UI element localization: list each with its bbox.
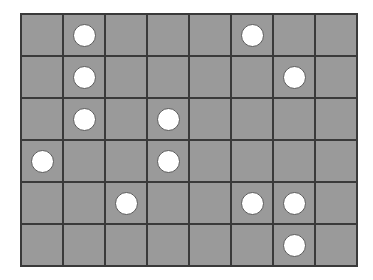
circle-token-icon[interactable]: [73, 24, 96, 47]
grid-cell-r3-c1[interactable]: [22, 99, 64, 141]
grid-cell-r1-c1[interactable]: [22, 15, 64, 57]
grid-cell-r6-c7[interactable]: [274, 225, 316, 267]
grid-cell-r6-c3[interactable]: [106, 225, 148, 267]
grid-cell-r5-c8[interactable]: [316, 183, 358, 225]
circle-token-icon[interactable]: [283, 66, 306, 89]
grid-cell-r3-c3[interactable]: [106, 99, 148, 141]
grid-cell-r6-c2[interactable]: [64, 225, 106, 267]
grid-cell-r3-c2[interactable]: [64, 99, 106, 141]
grid-cell-r1-c2[interactable]: [64, 15, 106, 57]
grid-cell-r4-c8[interactable]: [316, 141, 358, 183]
grid-cell-r6-c5[interactable]: [190, 225, 232, 267]
circle-token-icon[interactable]: [31, 150, 54, 173]
circle-token-icon[interactable]: [241, 24, 264, 47]
grid-cell-r1-c7[interactable]: [274, 15, 316, 57]
grid-cell-r6-c8[interactable]: [316, 225, 358, 267]
grid-cell-r3-c6[interactable]: [232, 99, 274, 141]
grid-cell-r3-c4[interactable]: [148, 99, 190, 141]
grid-cell-r6-c6[interactable]: [232, 225, 274, 267]
circle-token-icon[interactable]: [157, 108, 180, 131]
grid-cell-r5-c2[interactable]: [64, 183, 106, 225]
grid-cell-r6-c4[interactable]: [148, 225, 190, 267]
grid-cell-r1-c8[interactable]: [316, 15, 358, 57]
grid-cell-r4-c4[interactable]: [148, 141, 190, 183]
grid-cell-r5-c4[interactable]: [148, 183, 190, 225]
grid-cell-r2-c5[interactable]: [190, 57, 232, 99]
grid-cell-r2-c6[interactable]: [232, 57, 274, 99]
grid-cell-r3-c8[interactable]: [316, 99, 358, 141]
grid-cell-r6-c1[interactable]: [22, 225, 64, 267]
grid-cell-r4-c3[interactable]: [106, 141, 148, 183]
grid-cell-r4-c5[interactable]: [190, 141, 232, 183]
circle-token-icon[interactable]: [283, 192, 306, 215]
grid-cell-r1-c5[interactable]: [190, 15, 232, 57]
grid-cell-r2-c7[interactable]: [274, 57, 316, 99]
circle-token-icon[interactable]: [241, 192, 264, 215]
circle-token-icon[interactable]: [73, 108, 96, 131]
grid-cell-r2-c2[interactable]: [64, 57, 106, 99]
circle-token-icon[interactable]: [73, 66, 96, 89]
grid-cell-r5-c3[interactable]: [106, 183, 148, 225]
circle-token-icon[interactable]: [115, 192, 138, 215]
grid-cell-r4-c7[interactable]: [274, 141, 316, 183]
grid-cell-r5-c6[interactable]: [232, 183, 274, 225]
grid-cell-r1-c4[interactable]: [148, 15, 190, 57]
grid-cell-r1-c6[interactable]: [232, 15, 274, 57]
circle-token-icon[interactable]: [283, 234, 306, 257]
circle-token-icon[interactable]: [157, 150, 180, 173]
circle-grid-board[interactable]: [20, 13, 358, 267]
grid-cell-r5-c7[interactable]: [274, 183, 316, 225]
grid-cell-r2-c1[interactable]: [22, 57, 64, 99]
grid-cell-r3-c5[interactable]: [190, 99, 232, 141]
grid-cell-r5-c5[interactable]: [190, 183, 232, 225]
grid-cell-r3-c7[interactable]: [274, 99, 316, 141]
grid-cell-r4-c1[interactable]: [22, 141, 64, 183]
grid-cell-r4-c2[interactable]: [64, 141, 106, 183]
grid-cell-r2-c4[interactable]: [148, 57, 190, 99]
grid-cell-r2-c8[interactable]: [316, 57, 358, 99]
grid-cell-r5-c1[interactable]: [22, 183, 64, 225]
grid-cell-r2-c3[interactable]: [106, 57, 148, 99]
grid-cell-r4-c6[interactable]: [232, 141, 274, 183]
grid-cell-r1-c3[interactable]: [106, 15, 148, 57]
